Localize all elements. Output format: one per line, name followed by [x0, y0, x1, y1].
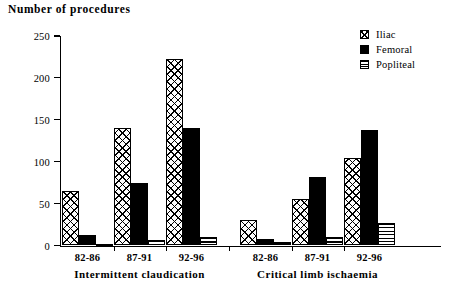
y-axis-tick-label: 100 [20, 156, 50, 167]
y-axis-labels: 050100150200250 [16, 0, 50, 295]
bar-iliac-82-86-g1 [62, 191, 79, 245]
legend-swatch-popliteal-icon [360, 60, 369, 69]
legend-label: Iliac [376, 29, 396, 40]
group-label-2: Critical limb ischaemia [257, 268, 378, 280]
bar-femoral-87-91-g1 [131, 183, 148, 246]
y-axis-tick [54, 119, 60, 120]
x-axis-tick [114, 246, 115, 251]
x-axis-line [60, 246, 441, 247]
bar-iliac-92-96-g2 [344, 158, 361, 246]
bar-femoral-92-96-g1 [183, 128, 200, 245]
legend-item-femoral: Femoral [360, 43, 448, 56]
legend-label: Femoral [376, 44, 412, 55]
period-label-82-86-g1: 82-86 [75, 252, 101, 263]
legend-item-popliteal: Popliteal [360, 58, 448, 71]
bar-popliteal-92-96-g2 [378, 223, 395, 246]
y-axis-tick-label: 150 [20, 114, 50, 125]
y-axis-tick [54, 77, 60, 78]
bar-femoral-92-96-g2 [361, 130, 378, 246]
y-axis-tick-label: 50 [20, 198, 50, 209]
bar-popliteal-82-86-g2 [274, 242, 291, 245]
period-label-82-86-g2: 82-86 [253, 252, 279, 263]
bar-femoral-87-91-g2 [309, 177, 326, 246]
y-axis-tick [54, 161, 60, 162]
group-label-1: Intermittent claudication [74, 268, 205, 280]
y-axis-tick [54, 35, 60, 36]
bar-iliac-87-91-g2 [292, 199, 309, 245]
legend-swatch-femoral-icon [360, 45, 369, 54]
y-axis-tick-label: 250 [20, 31, 50, 42]
y-axis-line [60, 36, 61, 247]
bar-femoral-82-86-g2 [257, 239, 274, 246]
y-axis-tick [54, 203, 60, 204]
period-label-87-91-g2: 87-91 [305, 252, 331, 263]
x-axis-tick [292, 246, 293, 251]
chart-legend: IliacFemoralPopliteal [360, 28, 448, 73]
bar-popliteal-87-91-g2 [326, 237, 343, 245]
period-label-87-91-g1: 87-91 [127, 252, 153, 263]
y-axis-tick-label: 0 [20, 240, 50, 251]
y-axis-tick-label: 200 [20, 72, 50, 83]
bar-popliteal-82-86-g1 [96, 244, 113, 246]
bar-iliac-82-86-g2 [240, 220, 257, 245]
y-axis-tick [54, 245, 60, 246]
legend-item-iliac: Iliac [360, 28, 448, 41]
x-axis-tick [344, 246, 345, 251]
legend-label: Popliteal [376, 59, 415, 70]
bar-iliac-87-91-g1 [114, 128, 131, 245]
period-label-92-96-g1: 92-96 [179, 252, 205, 263]
period-label-92-96-g2: 92-96 [357, 252, 383, 263]
x-axis-tick [229, 246, 230, 251]
legend-swatch-iliac-icon [360, 30, 369, 39]
bar-popliteal-87-91-g1 [148, 240, 165, 246]
bar-popliteal-92-96-g1 [200, 237, 217, 245]
x-axis-tick [166, 246, 167, 251]
bar-iliac-92-96-g1 [166, 59, 183, 245]
bar-femoral-82-86-g1 [79, 235, 96, 246]
